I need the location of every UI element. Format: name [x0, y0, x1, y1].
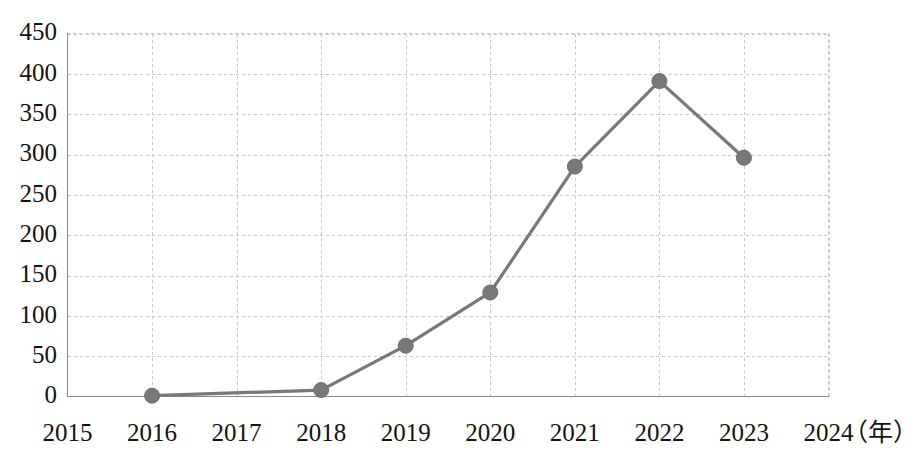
x-axis-tick-label: 2023 [719, 419, 769, 446]
x-axis-tick-label: 2020 [465, 419, 515, 446]
data-point-marker [398, 338, 413, 353]
y-axis-tick-label: 0 [45, 381, 58, 408]
y-axis-tick-label: 250 [20, 180, 58, 207]
y-axis-tick-label: 50 [32, 341, 57, 368]
chart-canvas: 050100150200250300350400450 201520162017… [0, 0, 921, 469]
y-axis-tick-label: 350 [20, 99, 58, 126]
data-point-marker [567, 159, 582, 174]
data-point-marker [652, 74, 667, 89]
x-axis-tick-label: 2022 [634, 419, 684, 446]
line-chart: 050100150200250300350400450 201520162017… [0, 0, 921, 469]
y-axis-tick-label: 200 [20, 220, 58, 247]
chart-background [0, 0, 921, 469]
y-axis-tick-label: 100 [20, 301, 58, 328]
x-axis-tick-label: 2018 [296, 419, 346, 446]
y-axis-tick-label: 400 [20, 59, 58, 86]
x-axis-tick-label: 2017 [212, 419, 262, 446]
y-axis-tick-label: 300 [20, 139, 58, 166]
x-axis-tick-label: 2015 [43, 419, 93, 446]
y-axis-tick-label: 150 [20, 260, 58, 287]
data-point-marker [314, 383, 329, 398]
data-point-marker [736, 150, 751, 165]
x-axis-tick-label: 2021 [550, 419, 600, 446]
x-axis-unit-label: （年） [843, 419, 918, 446]
x-axis-tick-label: 2016 [127, 419, 177, 446]
data-point-marker [145, 388, 160, 403]
x-axis-tick-label: 2019 [381, 419, 431, 446]
y-axis-tick-label: 450 [20, 18, 58, 45]
data-point-marker [483, 285, 498, 300]
